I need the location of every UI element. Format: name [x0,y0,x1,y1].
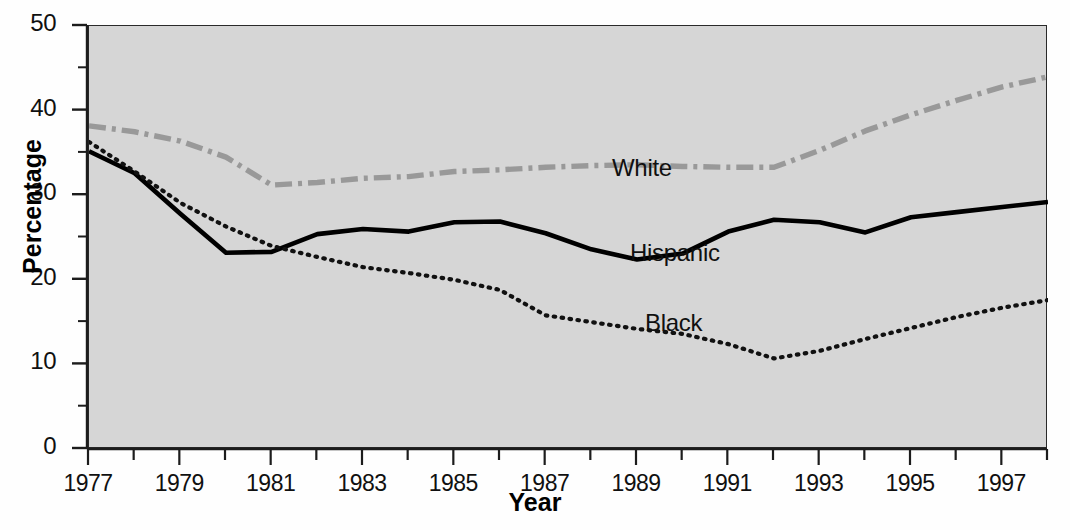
y-tick-label: 0 [8,432,56,460]
plot-area: White Hispanic Black [88,25,1047,448]
y-tick-label: 10 [8,347,56,375]
series-canvas [89,26,1048,449]
series-label-black: Black [645,309,702,337]
series-line-white [89,77,1048,185]
series-line-hispanic [89,151,1048,259]
series-label-hispanic: Hispanic [630,239,720,267]
series-line-black [89,142,1048,359]
y-tick-label: 50 [8,9,56,37]
x-axis-title: Year [0,488,1070,517]
series-label-white: White [612,154,672,182]
chart-figure: White Hispanic Black 01020304050 1977197… [0,0,1070,530]
y-axis-title: Percentage [18,97,47,317]
